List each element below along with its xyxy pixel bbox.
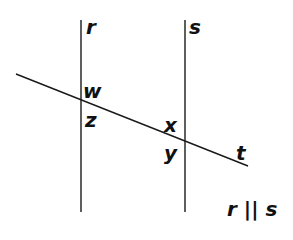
label-r: r	[86, 15, 97, 39]
transversal-t	[16, 74, 248, 166]
parallel-statement: r || s	[227, 197, 277, 221]
angle-label-y: y	[164, 141, 178, 165]
angle-label-w: w	[83, 79, 102, 103]
angle-label-z: z	[84, 108, 97, 132]
label-t: t	[236, 141, 247, 165]
angle-label-x: x	[163, 113, 178, 137]
label-s: s	[189, 15, 201, 39]
parallel-lines-diagram: r s t w z x y r || s	[0, 0, 293, 240]
